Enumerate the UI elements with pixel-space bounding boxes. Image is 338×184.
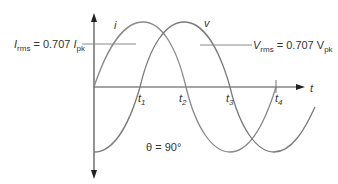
voltage-label: v bbox=[204, 17, 211, 29]
vrms-label: Vrms = 0.707 Vpk bbox=[253, 39, 334, 54]
phase-angle-label: θ = 90° bbox=[146, 141, 181, 153]
current-label: i bbox=[114, 19, 117, 31]
phase-diagram: i v t t1 t2 t3 t4 Irms = 0.707 Ipk Vrms … bbox=[0, 0, 338, 184]
right-arrow-icon bbox=[296, 84, 305, 90]
waveform-svg: i v t t1 t2 t3 t4 Irms = 0.707 Ipk Vrms … bbox=[0, 0, 338, 184]
irms-label: Irms = 0.707 Ipk bbox=[14, 38, 86, 53]
t4-label: t4 bbox=[275, 92, 283, 107]
up-arrow-icon bbox=[91, 13, 97, 22]
time-axis-label: t bbox=[310, 82, 314, 94]
down-arrow-icon bbox=[91, 170, 97, 179]
t2-label: t2 bbox=[179, 92, 187, 107]
t3-label: t3 bbox=[226, 92, 234, 107]
t1-label: t1 bbox=[138, 92, 146, 107]
